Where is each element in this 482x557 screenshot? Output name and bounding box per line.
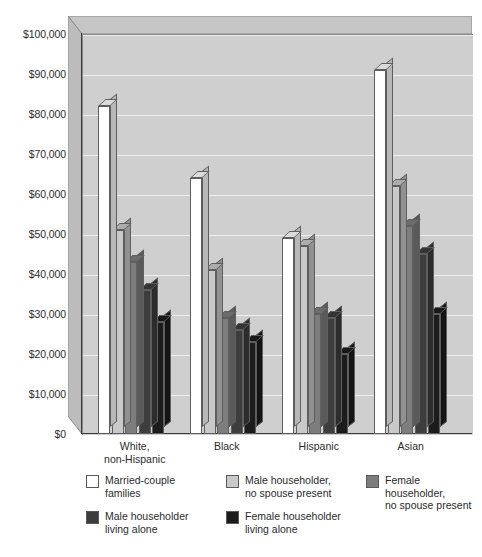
y-axis-tick-label: $0 [55,429,66,439]
legend-swatch [86,511,99,524]
legend-item: Female householder, no spouse present [366,474,476,512]
bar-front-face [282,238,294,434]
legend-label: Married-couple families [105,474,175,499]
bar-side-face [110,94,117,427]
y-axis-tick-label: $30,000 [29,309,66,319]
legend-swatch [226,511,239,524]
bar-group [282,34,350,434]
bar [282,238,294,434]
bar [190,178,202,434]
bar-side-face [413,214,420,427]
y-axis-tick-label: $100,000 [23,29,66,39]
chart-legend: Married-couple familiesMale householder,… [86,474,476,544]
bar-side-face [427,242,434,427]
bar [374,70,386,434]
bar-side-face [151,278,158,427]
bar-side-face [164,310,171,427]
legend-item: Married-couple families [86,474,175,499]
y-axis-tick-label: $70,000 [29,149,66,159]
legend-label: Female householder, no spouse present [385,474,476,512]
legend-swatch [226,475,239,488]
bar-side-face [335,306,342,427]
legend-label: Male householder living alone [105,510,188,535]
y-axis-tick-label: $50,000 [29,229,66,239]
legend-label: Female householder living alone [245,510,341,535]
legend-label: Male householder, no spouse present [245,474,331,499]
y-axis-tick-label: $20,000 [29,349,66,359]
bar-side-face [440,302,447,427]
bar-side-face [256,330,263,427]
bar-group [98,34,166,434]
bar-side-face [137,250,144,427]
bar-front-face [374,70,386,434]
legend-swatch [86,475,99,488]
bar-side-face [386,58,393,427]
bar [98,106,110,434]
bar-side-face [202,166,209,427]
legend-item: Male householder, no spouse present [226,474,331,499]
legend-swatch [366,475,379,488]
bars-layer [68,16,472,436]
bar-side-face [400,174,407,427]
bar-side-face [321,302,328,427]
y-axis-tick-label: $60,000 [29,189,66,199]
bar-front-face [98,106,110,434]
bar-side-face [243,318,250,427]
income-bar-chart: $0$10,000$20,000$30,000$40,000$50,000$60… [0,0,482,557]
y-axis-tick-label: $90,000 [29,69,66,79]
x-axis-categories: White,non-HispanicBlackHispanicAsian [68,440,472,474]
bar-group [374,34,442,434]
x-axis-category-label: Asian [351,440,471,453]
bar-side-face [348,342,355,427]
bar-group [190,34,258,434]
bar-side-face [308,234,315,427]
bar-front-face [190,178,202,434]
legend-item: Female householder living alone [226,510,341,535]
bar-side-face [294,226,301,427]
y-axis: $0$10,000$20,000$30,000$40,000$50,000$60… [0,0,68,450]
y-axis-tick-label: $10,000 [29,389,66,399]
y-axis-tick-label: $80,000 [29,109,66,119]
bar-side-face [216,258,223,427]
bar-side-face [124,218,131,427]
legend-item: Male householder living alone [86,510,188,535]
y-axis-tick-label: $40,000 [29,269,66,279]
bar-side-face [229,306,236,427]
